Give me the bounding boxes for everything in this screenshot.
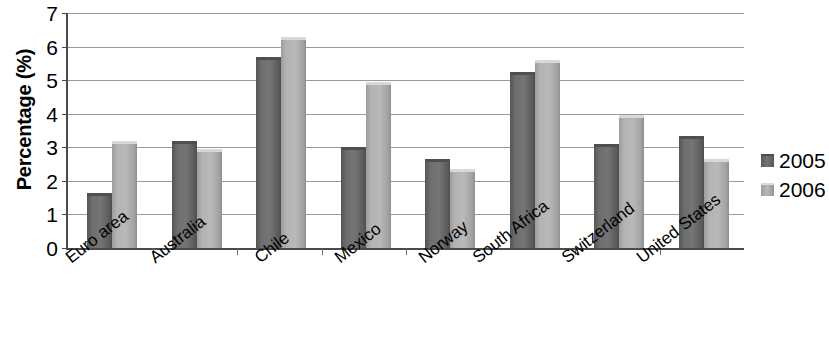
y-axis-tick-label: 6 bbox=[28, 36, 58, 57]
y-axis-tick-label: 4 bbox=[28, 103, 58, 124]
bar-group bbox=[425, 13, 475, 248]
bar-chart: Percentage (%) 76543210 Euro areaAustral… bbox=[0, 0, 829, 361]
legend-swatch-icon bbox=[761, 183, 774, 196]
legend-item-2006: 2006 bbox=[761, 175, 827, 204]
legend-label: 2005 bbox=[779, 150, 826, 171]
chart-legend: 20052006 bbox=[761, 146, 827, 204]
y-axis-tick-label: 7 bbox=[28, 3, 58, 24]
legend-item-2005: 2005 bbox=[761, 146, 827, 175]
x-axis-category-labels: Euro areaAustraliaChileMexicoNorwaySouth… bbox=[66, 252, 742, 361]
plot-area bbox=[66, 13, 744, 250]
y-axis-tick-mark bbox=[62, 181, 68, 182]
y-axis-tick-mark bbox=[62, 47, 68, 48]
y-axis-tick-mark bbox=[62, 214, 68, 215]
y-axis-tick-mark bbox=[62, 80, 68, 81]
y-axis-tick-label: 1 bbox=[28, 204, 58, 225]
y-axis-tick-labels: 76543210 bbox=[28, 0, 58, 361]
y-axis-tick-label: 0 bbox=[28, 238, 58, 259]
bar-group bbox=[256, 13, 306, 248]
bar-2005 bbox=[256, 57, 281, 248]
bar-group bbox=[341, 13, 391, 248]
y-axis-tick-mark bbox=[62, 114, 68, 115]
y-axis-tick-label: 2 bbox=[28, 170, 58, 191]
legend-label: 2006 bbox=[779, 179, 826, 200]
y-axis-tick-mark bbox=[62, 147, 68, 148]
y-axis-tick-label: 3 bbox=[28, 137, 58, 158]
bar-2006 bbox=[281, 37, 306, 249]
y-axis-tick-mark bbox=[62, 13, 68, 14]
y-axis-tick-label: 5 bbox=[28, 70, 58, 91]
legend-swatch-icon bbox=[761, 154, 774, 167]
bar-2006 bbox=[619, 115, 644, 248]
